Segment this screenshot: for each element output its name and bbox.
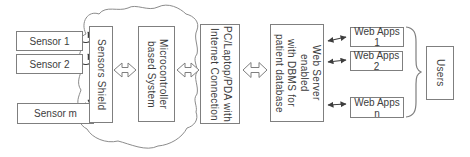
web-apps-2-box: Web Apps 2	[350, 51, 403, 71]
pc-box: PC/Laptop/PDA with Internet Connection	[200, 24, 240, 124]
webserver-webappsn-arrow	[328, 104, 346, 105]
web-apps-2-label: Web Apps 2	[351, 50, 402, 72]
sensors-shield-label: Sensors Shield	[95, 39, 108, 110]
webserver-webapps1-arrow	[328, 37, 346, 41]
web-apps-n-label: Web Apps n	[351, 97, 403, 119]
pc-label: PC/Laptop/PDA with Internet Connection	[208, 26, 233, 122]
web-apps-1-box: Web Apps 1	[350, 27, 404, 47]
sensor-2-box: Sensor 2	[16, 54, 83, 74]
web-server-label: Web Server enabled with DBMS for patient…	[272, 25, 322, 121]
microcontroller-label: Microcontroller based System	[144, 39, 169, 109]
web-server-box: Web Server enabled with DBMS for patient…	[270, 24, 324, 122]
shield-microcontroller-arrow	[114, 63, 136, 77]
web-apps-1-label: Web Apps 1	[351, 26, 403, 48]
microcontroller-box: Microcontroller based System	[138, 26, 175, 122]
sensor-2-label: Sensor 2	[29, 59, 69, 70]
system-architecture-diagram: Sensor 1 Sensor 2 Sensor m Sensors Shiel…	[0, 0, 470, 157]
sensor-m-box: Sensor m	[17, 103, 94, 124]
sensors-shield-box: Sensors Shield	[89, 26, 113, 123]
sensor-1-label: Sensor 1	[29, 36, 69, 47]
pc-webserver-arrow	[243, 63, 267, 78]
users-box: Users	[426, 46, 454, 100]
sensor-1-box: Sensor 1	[16, 31, 83, 51]
users-label: Users	[434, 59, 447, 87]
users-brace	[406, 27, 421, 117]
web-apps-n-box: Web Apps n	[350, 97, 404, 118]
webserver-webapps2-arrow	[328, 60, 346, 62]
sensor-m-label: Sensor m	[34, 108, 77, 119]
